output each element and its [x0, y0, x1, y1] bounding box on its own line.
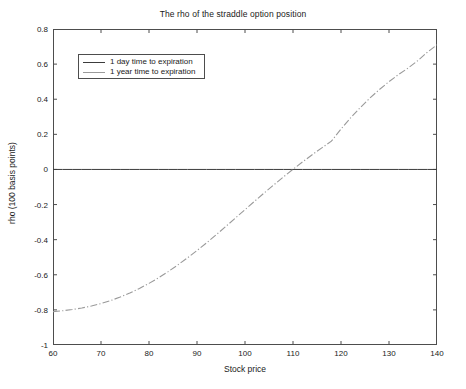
- figure-canvas: The rho of the straddle option position …: [0, 0, 466, 389]
- y-tick-label: 0.6: [37, 60, 48, 69]
- series-line-2: [53, 45, 437, 312]
- legend-label: 1 year time to expiration: [110, 67, 195, 77]
- x-tick-label: 120: [334, 349, 347, 358]
- x-tick-label: 60: [49, 349, 58, 358]
- legend-line-swatch: [83, 72, 105, 73]
- y-tick-label: -0.2: [34, 200, 48, 209]
- y-tick-label: -0.8: [34, 305, 48, 314]
- legend-line-swatch: [83, 62, 105, 63]
- x-tick-label: 130: [382, 349, 395, 358]
- legend-box: 1 day time to expiration1 year time to e…: [78, 54, 205, 79]
- y-tick-label: 0: [44, 165, 48, 174]
- chart-title: The rho of the straddle option position: [0, 9, 466, 19]
- y-tick-label: 0.4: [37, 95, 48, 104]
- legend-label: 1 day time to expiration: [110, 57, 193, 67]
- x-axis-label: Stock price: [53, 364, 437, 374]
- x-tick-label: 100: [238, 349, 251, 358]
- y-tick-label: -0.6: [34, 270, 48, 279]
- x-tick-label: 110: [287, 349, 300, 358]
- x-tick-label: 140: [430, 349, 443, 358]
- legend-item[interactable]: 1 year time to expiration: [79, 67, 204, 77]
- x-tick-label: 70: [97, 349, 106, 358]
- legend-item[interactable]: 1 day time to expiration: [79, 57, 204, 67]
- y-tick-label: 0.2: [37, 130, 48, 139]
- x-tick-label: 80: [145, 349, 154, 358]
- y-tick-label: 0.8: [37, 25, 48, 34]
- y-tick-label: -0.4: [34, 235, 48, 244]
- x-axis-tick-labels: 60708090100110120130140: [0, 349, 466, 363]
- y-axis-tick-labels: -1-0.8-0.6-0.4-0.200.20.40.60.8: [0, 29, 48, 345]
- x-tick-label: 90: [193, 349, 202, 358]
